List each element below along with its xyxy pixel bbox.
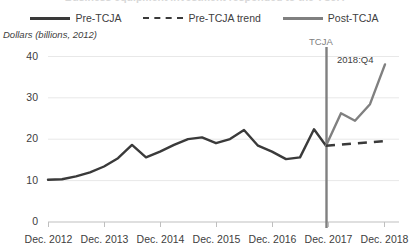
y-tick-10: 10 [12,174,38,186]
tcja-line-label: TCJA [309,36,333,47]
gridlines [48,57,399,181]
x-axis-ticks [49,222,385,227]
series-post-tcja [326,64,385,145]
y-tick-20: 20 [12,132,38,144]
series-pre-tcja [48,129,326,180]
plot-area: 40 30 20 10 0 Dec. 2012 Dec. 2013 Dec. 2… [0,0,409,251]
chart-svg [0,0,409,251]
y-tick-0: 0 [12,215,38,227]
chart-figure: Business equipment investment responded … [0,0,409,251]
x-tick-dec-2018: Dec. 2018 [347,233,409,245]
final-point-label: 2018:Q4 [337,54,373,65]
series-pre-tcja-trend [326,141,385,146]
y-tick-30: 30 [12,91,38,103]
y-tick-40: 40 [12,50,38,62]
